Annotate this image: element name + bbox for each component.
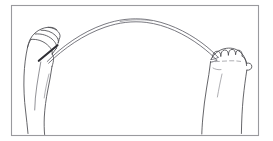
illustration-canvas: Resistance band foot stretch Line drawin…	[0, 0, 273, 141]
line-drawing-svg	[0, 0, 273, 141]
page-background	[0, 0, 273, 141]
